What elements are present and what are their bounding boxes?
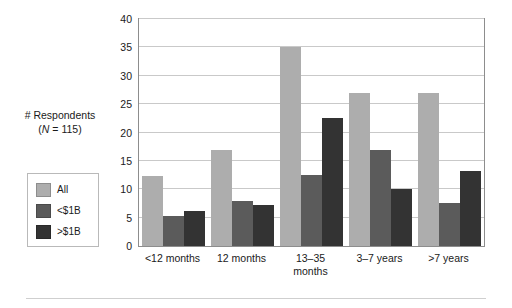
x-tick-label-line: 3–7 years	[345, 252, 414, 265]
y-tick-label: 40	[108, 13, 132, 25]
x-tick-label-line: 13–35	[276, 252, 345, 265]
y-tick-label: 25	[108, 98, 132, 110]
y-tick-label: 0	[108, 240, 132, 252]
x-tick-label-line: 12 months	[207, 252, 276, 265]
x-tick-label: 12 months	[207, 252, 276, 265]
x-tick-label: 13–35months	[276, 252, 345, 278]
bar-chart-figure: # Respondents (N = 115) All <$1B >$1B 05…	[0, 0, 512, 308]
bottom-divider	[26, 298, 486, 299]
x-tick-label: <12 months	[138, 252, 207, 265]
x-tick-label-line: months	[276, 265, 345, 278]
y-tick-label: 30	[108, 70, 132, 82]
x-tick-label-line: >7 years	[414, 252, 483, 265]
x-tick-label: 3–7 years	[345, 252, 414, 265]
y-tick-label: 20	[108, 127, 132, 139]
y-tick-label: 15	[108, 155, 132, 167]
y-axis-ticks: 0510152025303540	[0, 18, 512, 248]
x-tick-label: >7 years	[414, 252, 483, 265]
x-axis-ticks: <12 months12 months13–35months3–7 years>…	[138, 252, 485, 292]
y-tick-label: 35	[108, 41, 132, 53]
y-tick-label: 10	[108, 183, 132, 195]
y-tick-label: 5	[108, 212, 132, 224]
x-tick-label-line: <12 months	[138, 252, 207, 265]
